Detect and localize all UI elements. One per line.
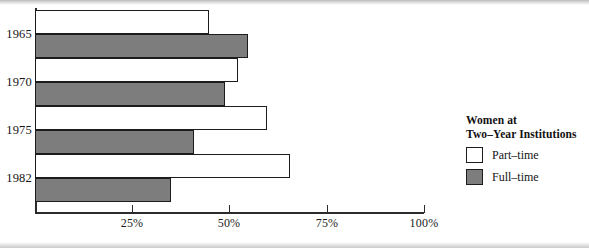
legend-item-full-time: Full–time bbox=[466, 169, 586, 185]
legend-title-line-1: Women at bbox=[466, 114, 586, 128]
chart-legend: Women at Two–Year Institutions Part–time… bbox=[466, 114, 586, 185]
x-axis-label-75: 75% bbox=[316, 216, 339, 231]
bar-full-time-1975 bbox=[35, 130, 194, 154]
year-label-1975: 1975 bbox=[6, 123, 32, 138]
legend-swatch-full-time bbox=[466, 169, 483, 185]
year-label-1970: 1970 bbox=[6, 75, 32, 90]
x-axis-tick-0 bbox=[35, 205, 36, 213]
legend-swatch-part-time bbox=[466, 147, 483, 163]
bar-full-time-1982 bbox=[35, 178, 171, 202]
x-axis-label-50: 50% bbox=[218, 216, 241, 231]
x-axis-tick-75 bbox=[327, 205, 328, 213]
x-axis-tick-50 bbox=[229, 205, 230, 213]
bar-part-time-1975 bbox=[35, 106, 267, 130]
year-label-1982: 1982 bbox=[6, 171, 32, 186]
legend-title-line-2: Two–Year Institutions bbox=[466, 128, 586, 142]
x-axis-label-25: 25% bbox=[121, 216, 144, 231]
bar-part-time-1982 bbox=[35, 154, 290, 178]
year-label-1965: 1965 bbox=[6, 27, 32, 42]
chart-screenshot: 25% 50% 75% 100% 1965 1970 1975 1982 Wom… bbox=[0, 0, 589, 248]
legend-title: Women at Two–Year Institutions bbox=[466, 114, 586, 141]
legend-label-part-time: Part–time bbox=[492, 148, 539, 163]
legend-label-full-time: Full–time bbox=[492, 170, 539, 185]
bar-full-time-1965 bbox=[35, 34, 248, 58]
x-axis-tick-25 bbox=[132, 205, 133, 213]
x-axis-tick-100 bbox=[424, 205, 425, 213]
bar-part-time-1965 bbox=[35, 10, 209, 34]
bar-part-time-1970 bbox=[35, 58, 238, 82]
legend-item-part-time: Part–time bbox=[466, 147, 586, 163]
bar-full-time-1970 bbox=[35, 82, 225, 106]
x-axis-label-100: 100% bbox=[410, 216, 439, 231]
